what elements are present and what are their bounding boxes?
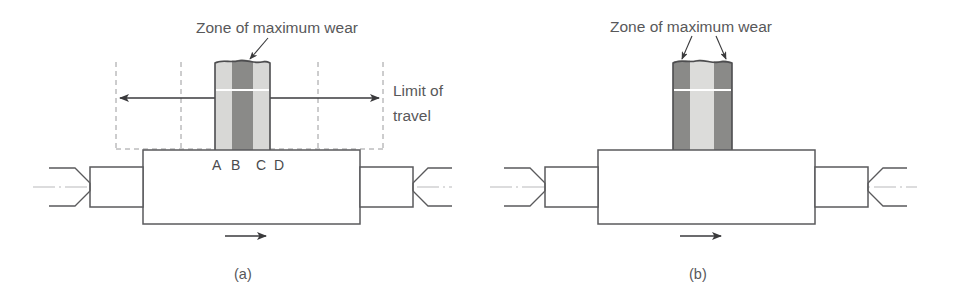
band-dark-right bbox=[714, 55, 732, 150]
point-label-d: D bbox=[274, 157, 284, 173]
roller-barrel-a bbox=[143, 150, 360, 224]
limit-label-line1-a: Limit of bbox=[393, 82, 444, 99]
panel-b: Zone of maximum wear (b) bbox=[490, 18, 917, 282]
zone-leader-arrow-b-right bbox=[716, 36, 726, 59]
roller-barrel-b bbox=[598, 150, 815, 224]
zone-label-a: Zone of maximum wear bbox=[196, 19, 358, 36]
point-label-a: A bbox=[212, 157, 222, 173]
wear-block-a bbox=[215, 55, 270, 150]
band-light-right bbox=[253, 55, 270, 150]
roller-journal-left-b bbox=[545, 167, 598, 207]
point-label-c: C bbox=[256, 157, 266, 173]
roller-journal-right-b bbox=[815, 167, 868, 207]
roller-assembly-b bbox=[490, 150, 917, 236]
wear-block-b bbox=[673, 55, 732, 150]
point-label-b: B bbox=[231, 157, 240, 173]
band-light-center bbox=[690, 55, 714, 150]
roller-journal-right-a bbox=[360, 167, 413, 207]
caption-b: (b) bbox=[689, 266, 707, 282]
limit-label-line2-a: travel bbox=[393, 107, 431, 124]
band-light-left bbox=[215, 55, 232, 150]
roller-wear-diagram: Zone of maximum wear Limit of travel A B… bbox=[0, 0, 953, 293]
caption-a: (a) bbox=[234, 266, 252, 282]
panel-a: Zone of maximum wear Limit of travel A B… bbox=[33, 19, 452, 282]
roller-journal-left-a bbox=[90, 167, 143, 207]
roller-assembly-a bbox=[33, 150, 452, 236]
zone-leader-arrow-b-left bbox=[682, 36, 692, 59]
band-dark-center bbox=[232, 55, 253, 150]
band-dark-left bbox=[673, 55, 690, 150]
zone-leader-arrow-a bbox=[250, 38, 268, 59]
figure-canvas: Zone of maximum wear Limit of travel A B… bbox=[0, 0, 953, 293]
zone-label-b: Zone of maximum wear bbox=[610, 18, 772, 35]
